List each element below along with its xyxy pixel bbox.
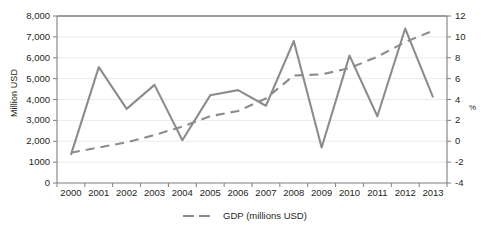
y-axis-left-tick-label: 8,000 <box>6 11 50 21</box>
chart-legend: GDP (millions USD) <box>0 210 490 221</box>
y-axis-right-tick-label: 10 <box>455 32 466 42</box>
y-axis-right-tick-label: 6 <box>455 74 460 84</box>
legend-dashed-line-icon <box>183 211 217 221</box>
x-axis-tick-label: 2013 <box>413 188 453 198</box>
y-axis-left-tick-label: 4,000 <box>6 95 50 105</box>
series-line-0 <box>71 29 433 155</box>
series-line-1 <box>71 31 433 153</box>
chart-container: Million USD % 8,0007,0006,0005,0004,0003… <box>0 0 490 233</box>
y-axis-left-tick-label: 5,000 <box>6 74 50 84</box>
y-axis-left-tick-label: 2,000 <box>6 136 50 146</box>
y-axis-left-tick-label: 6,000 <box>6 53 50 63</box>
y-axis-right-tick-label: 2 <box>455 115 460 125</box>
y-axis-right-tick-label: 8 <box>455 53 460 63</box>
y-axis-right-tick-label: -2 <box>455 157 463 167</box>
y-axis-right-tick-label: 12 <box>455 11 466 21</box>
y-axis-right-tick-label: -4 <box>455 178 463 188</box>
y-axis-left-tick-label: 1000 <box>6 157 50 167</box>
y-axis-left-tick-label: 3,000 <box>6 115 50 125</box>
y-axis-right-tick-label: 4 <box>455 95 460 105</box>
y-axis-left-tick-label: 0 <box>6 178 50 188</box>
y-axis-right-tick-label: 0 <box>455 136 460 146</box>
legend-item-label: GDP (millions USD) <box>223 210 307 221</box>
y-axis-right-title: % <box>469 103 476 112</box>
y-axis-left-tick-label: 7,000 <box>6 32 50 42</box>
chart-plot-area <box>0 0 490 233</box>
